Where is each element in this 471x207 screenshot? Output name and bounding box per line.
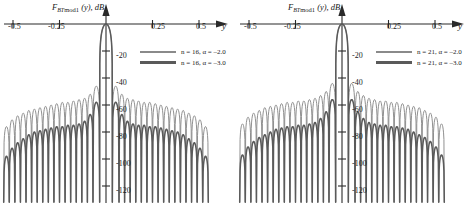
legend-item-0-left: n = 16, α = –2.0 [140, 47, 226, 56]
x-tick-label-0.5-left: 0.5 [196, 22, 206, 31]
y-tick-label-neg120-left: -120 [116, 186, 131, 195]
legend-line-swatch-thick-icon [140, 61, 176, 64]
legend-left: n = 16, α = –2.0 n = 16, α = –3.0 [140, 47, 226, 69]
x-tick-label-0.25-left: 0.25 [151, 22, 165, 31]
legend-item-1-right: n = 21, α = –3.0 [376, 58, 462, 67]
y-tick-label-neg80-right: -80 [352, 132, 363, 141]
x-tick-label-neg0.5-left: -0.5 [8, 22, 21, 31]
y-tick-label-neg20-left: -20 [116, 51, 127, 60]
legend-label-0-left: n = 16, α = –2.0 [181, 48, 226, 56]
legend-right: n = 21, α = –2.0 n = 21, α = –3.0 [376, 47, 462, 69]
legend-line-swatch-thick-icon [376, 61, 412, 64]
legend-item-0-right: n = 21, α = –2.0 [376, 47, 462, 56]
x-tick-label-0.25-right: 0.25 [387, 22, 401, 31]
y-tick-label-neg40-right: -40 [352, 78, 363, 87]
x-axis-variable-right: y [458, 21, 462, 31]
y-tick-label-neg20-right: -20 [352, 51, 363, 60]
y-tick-label-neg120-right: -120 [352, 186, 367, 195]
y-tick-label-neg60-right: -60 [352, 105, 363, 114]
x-tick-label-neg0.25-left: -0.25 [48, 22, 65, 31]
chart-panel-left: FBTmod1 (y), dB -0.5 -0.25 0.25 0.5 y -2… [0, 0, 236, 207]
y-axis-title-right: FBTmod1 (y), dB [288, 2, 340, 12]
plot-canvas-right [236, 0, 471, 207]
x-tick-label-0.5-right: 0.5 [432, 22, 442, 31]
legend-label-0-right: n = 21, α = –2.0 [417, 48, 462, 56]
y-tick-label-neg60-left: -60 [116, 105, 127, 114]
legend-line-swatch-thin-icon [376, 51, 412, 53]
y-tick-label-neg80-left: -80 [116, 132, 127, 141]
x-tick-label-neg0.5-right: -0.5 [244, 22, 257, 31]
legend-line-swatch-thin-icon [140, 51, 176, 53]
x-axis-variable-left: y [222, 21, 226, 31]
y-tick-label-neg100-left: -100 [116, 159, 131, 168]
x-tick-label-neg0.25-right: -0.25 [284, 22, 301, 31]
legend-label-1-right: n = 21, α = –3.0 [417, 59, 462, 67]
y-tick-label-neg40-left: -40 [116, 78, 127, 87]
chart-panel-right: FBTmod1 (y), dB -0.5 -0.25 0.25 0.5 y -2… [236, 0, 471, 207]
legend-item-1-left: n = 16, α = –3.0 [140, 58, 226, 67]
plot-canvas-left [0, 0, 236, 207]
figure-root: FBTmod1 (y), dB -0.5 -0.25 0.25 0.5 y -2… [0, 0, 471, 207]
y-tick-label-neg100-right: -100 [352, 159, 367, 168]
legend-label-1-left: n = 16, α = –3.0 [181, 59, 226, 67]
y-axis-title-left: FBTmod1 (y), dB [52, 2, 104, 12]
